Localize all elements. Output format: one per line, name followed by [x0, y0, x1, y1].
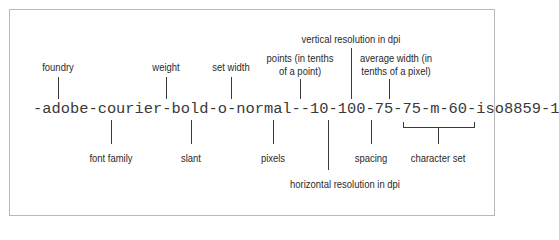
label-average-width-line1: average width (in [360, 51, 432, 65]
tick-spacing [371, 120, 372, 144]
tick-slant [191, 120, 192, 144]
tick-weight [166, 77, 167, 99]
tick-average-width [389, 79, 390, 99]
tick-pixels [273, 120, 274, 144]
label-font-family: font family [89, 151, 132, 165]
label-slant: slant [181, 151, 201, 165]
label-horizontal-resolution: horizontal resolution in dpi [290, 177, 400, 191]
tick-set-width [231, 77, 232, 99]
tick-character-set [438, 128, 439, 144]
label-spacing: spacing [355, 151, 388, 165]
tick-points [300, 79, 301, 99]
label-points-line1: points (in tenths [267, 51, 334, 65]
label-vertical-resolution: vertical resolution in dpi [302, 32, 401, 46]
label-set-width: set width [212, 60, 249, 74]
tick-font-family [111, 120, 112, 144]
tick-vertical-resolution [351, 48, 352, 99]
xlfd-font-name: -adobe-courier-bold-o-normal--10-100-75-… [33, 100, 559, 118]
label-character-set: character set [411, 151, 466, 165]
label-average-width-line2: tenths of a pixel) [361, 64, 430, 78]
tick-foundry [58, 77, 59, 99]
label-pixels: pixels [261, 151, 285, 165]
label-foundry: foundry [42, 60, 74, 74]
tick-horizontal-resolution [328, 120, 329, 170]
bracket-character-set [403, 122, 475, 128]
label-points-line2: of a point) [279, 64, 321, 78]
label-weight: weight [152, 60, 179, 74]
